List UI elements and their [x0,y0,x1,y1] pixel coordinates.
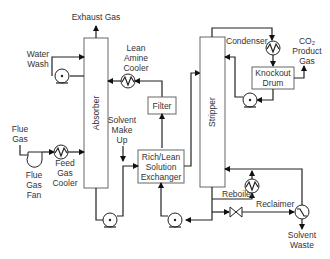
water-wash-pump [55,69,69,83]
exhaust-gas-label: Exhaust Gas [72,12,121,22]
feed-cooler-label-2: Gas [57,168,73,178]
flue-gas-label-1: Flue [12,124,29,134]
feed-cooler-label-3: Cooler [52,178,77,188]
stripper-label: Stripper [207,97,217,127]
feed-gas-cooler [54,145,68,159]
feed-cooler-label-1: Feed [55,158,75,168]
lean-amine-label-3: Cooler [123,63,148,73]
reboiler [245,179,259,193]
lean-to-exchanger-line [161,183,168,216]
lean-pump [168,213,182,227]
water-wash-label-2: Wash [27,59,49,69]
water-wash-label-1: Water [27,49,50,59]
knockout-label-2: Drum [263,78,284,88]
lean-amine-label-1: Lean [127,43,146,53]
solvent-waste-label-1: Solvent [288,230,317,240]
solvent-makeup-label-2: Make [112,125,133,135]
reflux-pump [243,93,257,107]
absorber-bottom-line [96,188,103,220]
co2-product-line [294,66,304,78]
co2-label-3: Gas [299,56,315,66]
absorber-label: Absorber [91,96,101,131]
condenser-label: Condenser [226,36,268,46]
exchanger-label-2: Solution [146,162,177,172]
co2-label-2: Product [292,46,322,56]
solvent-makeup-label-1: Solvent [108,115,137,125]
fan-label-1: Flue [26,170,43,180]
flue-gas-fan [27,152,42,167]
process-flow-diagram: Absorber Exhaust Gas Water Wash Lean Ami… [0,0,330,259]
flue-gas-inlet [20,145,28,155]
rich-to-exchanger-line [117,166,138,216]
exchanger-label-1: Rich/Lean [142,152,181,162]
solvent-makeup-label-3: Up [117,135,128,145]
co2-label-1: CO₂ [299,36,315,46]
rich-to-stripper-line [184,73,200,166]
solvent-waste-label-2: Waste [290,240,314,250]
stripper-bottoms-line [191,187,212,220]
fan-label-2: Gas [26,180,42,190]
knockout-label-1: Knockout [255,68,291,78]
lean-amine-label-2: Amine [124,53,148,63]
lean-amine-cooler [121,74,135,88]
exchanger-label-3: Exchanger [141,172,182,182]
flue-gas-label-2: Gas [12,134,28,144]
reclaimer-label: Reclaimer [256,199,294,209]
filter-label: Filter [153,101,172,111]
reflux-line [225,57,243,97]
fan-label-3: Fan [27,190,42,200]
reclaimer [295,205,309,219]
rich-pump [103,213,117,227]
condenser [266,41,280,55]
control-valve [230,207,242,217]
drum-to-reflux-pump-line [257,89,273,100]
